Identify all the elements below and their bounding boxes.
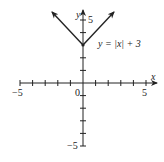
y-max-label: 5: [88, 14, 93, 25]
x-axis-label: x: [150, 71, 156, 82]
coordinate-graph: y 5 y = |x| + 3 x −5 0 5 −5: [0, 0, 164, 162]
x-max-label: 5: [142, 87, 147, 98]
vertex-point: [81, 43, 84, 46]
y-axis-label: y: [75, 9, 81, 20]
x-axis: [20, 80, 157, 86]
y-axis: [80, 10, 86, 146]
x-min-label: −5: [12, 87, 23, 98]
y-min-label: −5: [67, 140, 78, 151]
equation-label: y = |x| + 3: [97, 38, 141, 49]
origin-label: 0: [75, 87, 80, 98]
